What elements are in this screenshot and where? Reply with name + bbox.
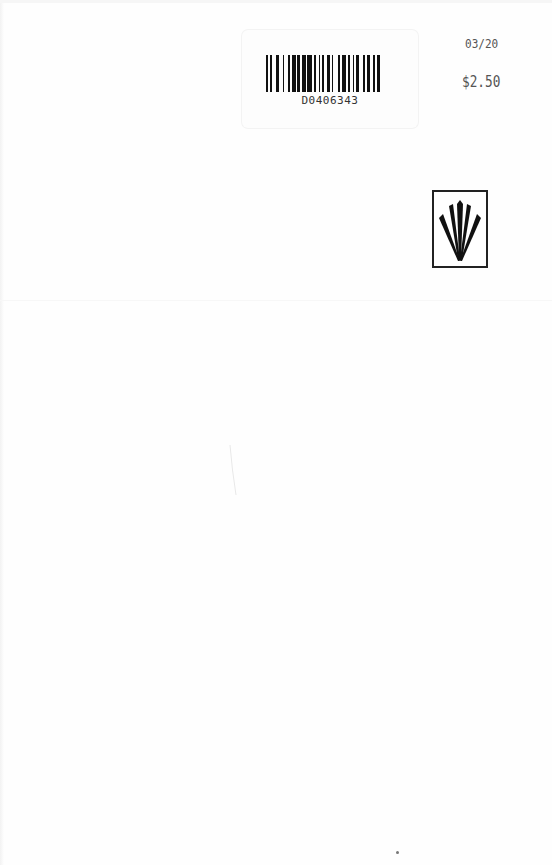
barcode-icon [266, 55, 408, 92]
page-top-edge [0, 0, 552, 3]
date-tag: 03/20 [465, 36, 498, 51]
barcode-sticker: D0406343 [242, 30, 418, 128]
publisher-logo [432, 190, 488, 268]
price-tag: $2.50 [462, 73, 500, 91]
barcode-number: D0406343 [242, 94, 418, 107]
fan-burst-logo-icon [434, 192, 486, 266]
paper-crease [228, 445, 238, 495]
book-back-cover: D0406343 03/20 $2.50 [0, 0, 552, 865]
fold-line [0, 300, 552, 301]
page-left-edge [0, 0, 4, 865]
dust-speck [396, 851, 399, 854]
